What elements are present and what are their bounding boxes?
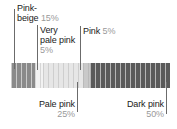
callout-pale-pink-line1: Pale pink: [18, 99, 75, 109]
leader-line-very-pale-pink: [37, 25, 38, 70]
callout-pink: Pink 5%: [83, 26, 115, 36]
callout-dark-pink-percent: 50%: [104, 109, 164, 119]
bar-segment-dark-pink[interactable]: [90, 63, 170, 88]
callout-very-pale-pink-percent: 5%: [40, 45, 75, 55]
segment-texture: [83, 63, 91, 88]
callout-pink-beige-line2: beige: [17, 13, 39, 23]
proportion-bar: [11, 63, 170, 88]
callout-pink-beige-line2-wrap: beige 15%: [17, 13, 59, 23]
callout-pale-pink: Pale pink 25%: [18, 99, 75, 119]
callout-dark-pink-line1: Dark pink: [104, 99, 164, 109]
callout-pink-beige-percent: 15%: [41, 13, 59, 23]
segment-texture: [90, 63, 170, 88]
leader-line-pale-pink: [77, 82, 78, 112]
leader-line-dark-pink: [166, 82, 167, 114]
callout-dark-pink: Dark pink 50%: [104, 99, 164, 119]
callout-pale-pink-percent: 25%: [18, 109, 75, 119]
callout-very-pale-pink-line2: pale pink: [40, 35, 75, 45]
callout-pink-beige-line1: Pink-: [17, 3, 59, 13]
bar-segment-pink[interactable]: [83, 63, 91, 88]
callout-pink-percent: 5%: [103, 26, 116, 36]
callout-very-pale-pink: Very pale pink 5%: [40, 25, 75, 55]
callout-very-pale-pink-line1: Very: [40, 25, 75, 35]
callout-pink-beige: Pink- beige 15%: [17, 3, 59, 23]
stacked-proportion-chart: Pink- beige 15% Very pale pink 5% Pink 5…: [0, 0, 177, 129]
leader-line-pink-beige: [14, 9, 15, 69]
callout-pink-line1: Pink: [83, 26, 100, 36]
leader-line-pink: [80, 26, 81, 70]
